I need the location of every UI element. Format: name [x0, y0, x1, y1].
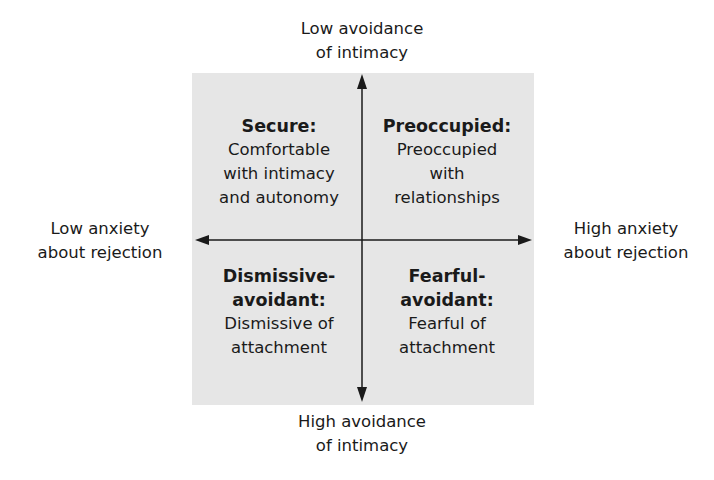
- arrow-left-icon: [195, 235, 209, 245]
- quadrant-preoccupied: Preoccupied: Preoccupied with relationsh…: [364, 114, 530, 210]
- arrow-up-icon: [357, 74, 367, 89]
- axis-label-left: Low anxiety about rejection: [10, 217, 190, 265]
- quadrant-title: avoidant:: [196, 288, 362, 312]
- quadrant-title: Preoccupied:: [364, 114, 530, 138]
- quadrant-title: Secure:: [196, 114, 362, 138]
- quadrant-title: avoidant:: [364, 288, 530, 312]
- axis-label-right: High anxiety about rejection: [538, 217, 714, 265]
- quadrant-secure: Secure: Comfortable with intimacy and au…: [196, 114, 362, 210]
- quadrant-dismissive-avoidant: Dismissive- avoidant: Dismissive of atta…: [196, 264, 362, 360]
- quadrant-title: Dismissive-: [196, 264, 362, 288]
- axis-label-top: Low avoidance of intimacy: [262, 17, 462, 65]
- arrow-down-icon: [357, 387, 367, 402]
- quadrant-title: Fearful-: [364, 264, 530, 288]
- arrow-right-icon: [518, 235, 532, 245]
- quadrant-fearful-avoidant: Fearful- avoidant: Fearful of attachment: [364, 264, 530, 360]
- axis-label-bottom: High avoidance of intimacy: [257, 410, 467, 458]
